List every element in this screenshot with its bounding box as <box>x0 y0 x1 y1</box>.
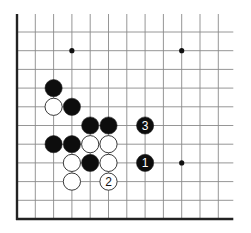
black-stone <box>45 136 62 153</box>
black-stone <box>100 117 117 134</box>
black-stone-icon <box>100 117 117 134</box>
black-stone-icon <box>45 80 62 97</box>
black-stone <box>63 98 80 115</box>
white-stone <box>63 173 80 190</box>
white-stone <box>100 154 117 171</box>
board-edges <box>16 14 233 220</box>
black-stone-icon <box>82 154 99 171</box>
black-stone <box>45 80 62 97</box>
black-stone-icon <box>82 117 99 134</box>
star-point-icon <box>69 48 74 53</box>
white-stone <box>82 136 99 153</box>
white-stone <box>100 136 117 153</box>
star-point-icon <box>179 48 184 53</box>
white-stone-icon <box>45 98 62 115</box>
black-stone <box>82 117 99 134</box>
go-board: 312 <box>0 0 251 233</box>
black-stone-3: 3 <box>137 117 154 134</box>
move-number: 3 <box>142 119 149 133</box>
white-stone-icon <box>63 173 80 190</box>
black-stone-icon <box>63 136 80 153</box>
black-stone-1: 1 <box>137 154 154 171</box>
black-stone <box>63 136 80 153</box>
move-number: 2 <box>105 175 112 189</box>
white-stone-icon <box>100 154 117 171</box>
grid-lines <box>17 14 233 219</box>
white-stone <box>45 98 62 115</box>
white-stone-icon <box>82 136 99 153</box>
white-stone <box>63 154 80 171</box>
move-number: 1 <box>142 156 149 170</box>
stones: 312 <box>45 80 154 191</box>
black-stone-icon <box>45 136 62 153</box>
white-stone-icon <box>100 136 117 153</box>
white-stone-2: 2 <box>100 173 117 190</box>
black-stone <box>82 154 99 171</box>
white-stone-icon <box>63 154 80 171</box>
star-point-icon <box>179 160 184 165</box>
black-stone-icon <box>63 98 80 115</box>
